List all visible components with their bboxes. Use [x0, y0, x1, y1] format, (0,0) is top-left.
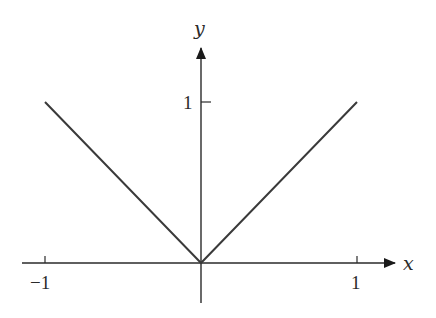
y-axis-label: y: [193, 17, 205, 39]
x-tick-label-1: 1: [351, 272, 361, 293]
abs-value-chart: y x −1 1 1: [0, 0, 436, 318]
y-tick-label-1: 1: [183, 92, 193, 113]
x-tick-label-neg1: −1: [30, 272, 50, 293]
x-axis-label: x: [403, 252, 414, 274]
